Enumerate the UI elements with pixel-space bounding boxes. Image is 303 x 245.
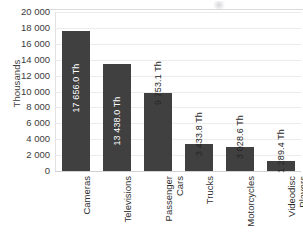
y-axis-line: [55, 12, 56, 171]
gridline: [55, 139, 301, 140]
top-border-line: [46, 9, 303, 10]
y-axis-tick-label: 12 000: [4, 71, 50, 81]
y-axis-tick-label: 2 000: [4, 150, 50, 160]
bar-value-label: 3 028.6 Th: [235, 107, 245, 167]
y-axis-tick-label: 8 000: [4, 102, 50, 112]
x-axis-category-label: Cameras: [81, 176, 92, 245]
gridline: [55, 155, 301, 156]
bar-value-label: 1 289.4 Th: [276, 121, 286, 181]
bar-column: 3 028.6 Th: [226, 12, 254, 171]
x-axis-category-label: Trucks: [204, 176, 215, 245]
bar-column: 1 289.4 Th: [267, 12, 295, 171]
y-axis-tick-label: 14 000: [4, 55, 50, 65]
x-axis-category-label: Televisions: [122, 176, 133, 245]
y-axis-tick-label: 0: [4, 166, 50, 176]
y-axis-tick-label: 16 000: [4, 39, 50, 49]
y-axis-tick-label: 20 000: [4, 7, 50, 17]
gridline: [55, 92, 301, 93]
bar-column: 17 656.0 Th: [62, 12, 90, 171]
gridline: [55, 171, 301, 172]
y-axis-tick-label: 4 000: [4, 134, 50, 144]
y-axis-tick-label: 10 000: [4, 87, 50, 97]
x-axis-category-label: PassengerCars: [163, 176, 185, 245]
x-axis-category-label: VideodiscPlayers: [286, 176, 303, 245]
gridline: [55, 44, 301, 45]
bar-chart: Thousands 20 00018 00016 00014 00012 000…: [0, 0, 303, 245]
bar-value-label: 17 656.0 Th: [71, 58, 81, 118]
y-axis-tick-label: 18 000: [4, 23, 50, 33]
gridline: [55, 12, 301, 13]
bar-value-label: 3 433.8 Th: [194, 104, 204, 164]
y-axis-tick-label: 6 000: [4, 118, 50, 128]
gridline: [55, 107, 301, 108]
gridline: [55, 123, 301, 124]
bar-value-label: 9 753.1 Th: [153, 53, 163, 113]
bar-value-label: 13 438.0 Th: [112, 91, 122, 151]
bar-column: 9 753.1 Th: [144, 12, 172, 171]
x-axis-category-label: Motorcycles: [245, 176, 256, 245]
scan-artifact: [212, 1, 226, 9]
bar-column: 3 433.8 Th: [185, 12, 213, 171]
plot-area: 17 656.0 Th13 438.0 Th9 753.1 Th3 433.8 …: [55, 12, 301, 171]
gridline: [55, 60, 301, 61]
gridline: [55, 28, 301, 29]
bar-column: 13 438.0 Th: [103, 12, 131, 171]
gridline: [55, 76, 301, 77]
